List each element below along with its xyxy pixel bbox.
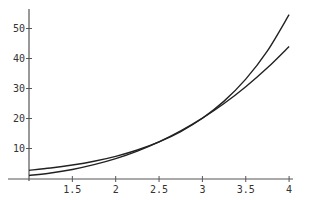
- x-tick-label: 2.5: [150, 184, 168, 195]
- x-tick-label: 4: [286, 184, 292, 195]
- y-tick-label: 40: [13, 53, 25, 64]
- y-axis: 1020304050: [13, 9, 32, 181]
- x-tick-label: 3: [199, 184, 205, 195]
- curve-upper-right: [29, 15, 289, 171]
- x-axis: 1.522.533.54: [8, 176, 293, 195]
- x-tick-label: 2: [113, 184, 119, 195]
- plot-area: [29, 15, 289, 176]
- x-tick-label: 1.5: [63, 184, 81, 195]
- line-chart: 1020304050 1.522.533.54: [0, 0, 310, 200]
- y-tick-label: 20: [13, 113, 25, 124]
- y-tick-label: 10: [13, 143, 25, 154]
- curve-lower-right: [29, 47, 289, 176]
- x-tick-label: 3.5: [237, 184, 255, 195]
- y-tick-label: 50: [13, 23, 25, 34]
- y-tick-label: 30: [13, 83, 25, 94]
